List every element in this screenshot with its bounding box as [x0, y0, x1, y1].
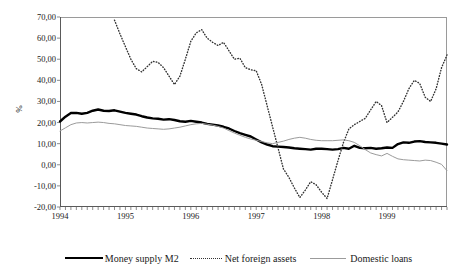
- legend-label: Money supply M2: [105, 253, 179, 264]
- y-tick-label: -10,00: [14, 182, 56, 191]
- y-tick-label: 30,00: [14, 97, 56, 106]
- x-tick-label: 1996: [171, 212, 211, 221]
- legend-item[interactable]: Domestic loans: [306, 253, 412, 264]
- y-tick-label: 60,00: [14, 34, 56, 43]
- chart-container: % 70,0060,0050,0040,0030,0020,0010,000,0…: [0, 0, 475, 273]
- y-tick-label: 40,00: [14, 76, 56, 85]
- y-tick-label: 50,00: [14, 55, 56, 64]
- legend-item[interactable]: Net foreign assets: [187, 253, 297, 264]
- legend-item[interactable]: Money supply M2: [63, 253, 179, 264]
- legend-line-swatch: [306, 253, 350, 263]
- series-line: [115, 20, 447, 198]
- chart-legend: Money supply M2Net foreign assetsDomesti…: [0, 248, 475, 268]
- legend-label: Domestic loans: [350, 253, 412, 264]
- y-tick-label: 10,00: [14, 140, 56, 149]
- y-tick-label: 20,00: [14, 119, 56, 128]
- series-line: [60, 122, 447, 171]
- y-tick-label: 0,00: [14, 161, 56, 170]
- x-tick-label: 1994: [40, 212, 80, 221]
- x-tick-label: 1997: [236, 212, 276, 221]
- legend-line-swatch: [187, 253, 225, 263]
- series-line: [60, 109, 447, 149]
- legend-label: Net foreign assets: [225, 253, 297, 264]
- x-tick-label: 1995: [105, 212, 145, 221]
- x-tick-label: 1999: [367, 212, 407, 221]
- x-tick-label: 1998: [302, 212, 342, 221]
- series-canvas: [60, 17, 447, 207]
- x-axis-tick-labels: 199419951996199719981999: [0, 212, 475, 226]
- y-tick-label: -20,00: [14, 203, 56, 212]
- plot-area: [60, 17, 447, 207]
- legend-line-swatch: [63, 253, 105, 263]
- y-tick-label: 70,00: [14, 13, 56, 22]
- y-axis-tick-labels: 70,0060,0050,0040,0030,0020,0010,000,00-…: [14, 0, 56, 273]
